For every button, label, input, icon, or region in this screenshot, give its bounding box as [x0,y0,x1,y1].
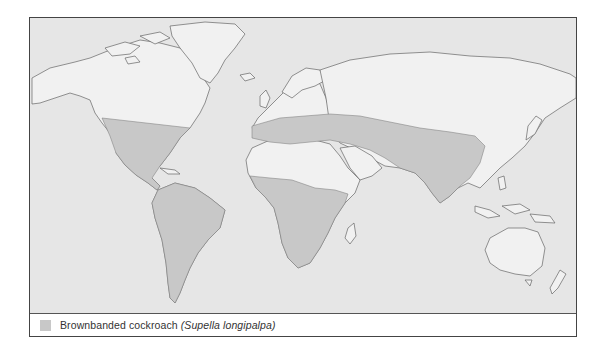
species-range [102,114,485,303]
legend-label: Brownbanded cockroach (Supella longipalp… [60,319,276,331]
legend-common-name: Brownbanded cockroach [60,319,178,331]
legend-swatch [40,320,51,331]
legend-scientific-name: (Supella longipalpa) [181,319,276,331]
world-map [30,18,576,314]
world-map-svg [30,18,576,313]
australia [485,228,545,276]
map-legend: Brownbanded cockroach (Supella longipalp… [30,314,576,336]
map-figure: Brownbanded cockroach (Supella longipalp… [29,17,577,337]
